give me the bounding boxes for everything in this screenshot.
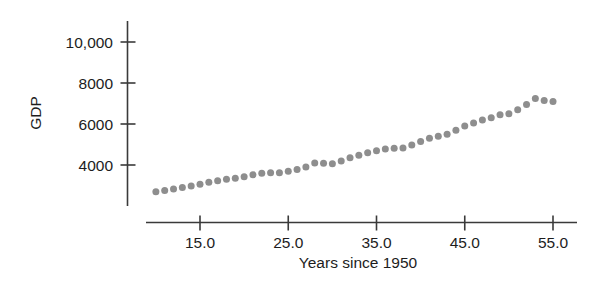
data-point bbox=[347, 154, 354, 161]
data-point bbox=[479, 116, 486, 123]
data-point bbox=[514, 106, 521, 113]
data-point bbox=[197, 181, 204, 188]
data-point bbox=[205, 179, 212, 186]
data-point bbox=[408, 141, 415, 148]
x-tick-label-35: 35.0 bbox=[361, 234, 392, 251]
data-point bbox=[391, 145, 398, 152]
data-point bbox=[364, 149, 371, 156]
data-point bbox=[399, 144, 406, 151]
data-point bbox=[505, 110, 512, 117]
y-axis-title: GDP bbox=[27, 96, 44, 130]
data-point bbox=[276, 169, 283, 176]
data-point bbox=[232, 175, 239, 182]
y-tick-label-10000: 10,000 bbox=[66, 34, 114, 51]
data-point bbox=[532, 95, 539, 102]
data-point bbox=[152, 188, 159, 195]
data-point bbox=[541, 97, 548, 104]
data-point bbox=[417, 138, 424, 145]
data-point bbox=[329, 160, 336, 167]
data-point bbox=[223, 176, 230, 183]
x-tick-label-15: 15.0 bbox=[185, 234, 216, 251]
data-point bbox=[355, 152, 362, 159]
data-point bbox=[285, 168, 292, 175]
data-point bbox=[311, 159, 318, 166]
scatter-plot: 40006000800010,000 15.025.035.045.055.0 … bbox=[0, 0, 601, 283]
data-point bbox=[497, 111, 504, 118]
y-tick-label-6000: 6000 bbox=[79, 116, 114, 133]
data-point bbox=[488, 114, 495, 121]
data-point bbox=[461, 123, 468, 130]
data-point bbox=[550, 98, 557, 105]
x-tick-label-25: 25.0 bbox=[273, 234, 304, 251]
data-point bbox=[294, 166, 301, 173]
x-tick-label-55: 55.0 bbox=[538, 234, 569, 251]
data-point bbox=[338, 157, 345, 164]
data-point bbox=[452, 127, 459, 134]
data-point bbox=[258, 170, 265, 177]
data-point bbox=[170, 185, 177, 192]
x-tick-label-45: 45.0 bbox=[450, 234, 481, 251]
data-point bbox=[523, 101, 530, 108]
data-points bbox=[152, 95, 556, 195]
x-axis-title: Years since 1950 bbox=[299, 254, 418, 271]
data-point bbox=[188, 183, 195, 190]
data-point bbox=[302, 164, 309, 171]
y-tick-label-4000: 4000 bbox=[79, 157, 114, 174]
data-point bbox=[179, 184, 186, 191]
data-point bbox=[470, 119, 477, 126]
data-point bbox=[373, 147, 380, 154]
data-point bbox=[249, 171, 256, 178]
data-point bbox=[435, 133, 442, 140]
y-tick-label-8000: 8000 bbox=[79, 75, 114, 92]
y-axis-tick-labels: 40006000800010,000 bbox=[66, 34, 114, 174]
data-point bbox=[320, 160, 327, 167]
data-point bbox=[267, 169, 274, 176]
data-point bbox=[241, 173, 248, 180]
data-point bbox=[214, 177, 221, 184]
data-point bbox=[426, 135, 433, 142]
chart-figure: 40006000800010,000 15.025.035.045.055.0 … bbox=[0, 0, 601, 283]
data-point bbox=[382, 146, 389, 153]
x-axis-tick-labels: 15.025.035.045.055.0 bbox=[185, 234, 569, 251]
data-point bbox=[161, 187, 168, 194]
data-point bbox=[444, 131, 451, 138]
